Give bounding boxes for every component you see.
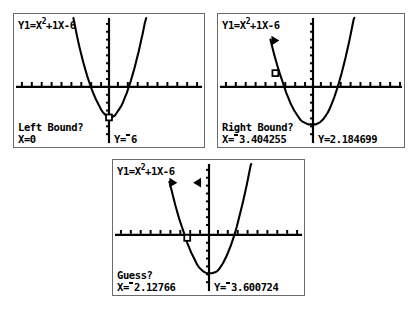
cursor-square[interactable] [272,70,278,76]
equation-label: Y1=X2+1X-6 [117,164,175,176]
parabola-curve [169,164,251,273]
left-bound-marker-icon [271,36,279,46]
equation-label: Y1=X2+1X-6 [222,18,280,30]
x-readout: X=3.404255 [222,134,286,145]
equation-label: Y1=X2+1X-6 [18,18,76,30]
y-readout: Y=6 [114,134,137,145]
y-readout: Y=2.184699 [318,134,377,145]
prompt-label: Right Bound? [222,122,293,133]
left-bound-marker-icon [169,178,177,188]
calculator-screen-right-bound[interactable]: Y1=X2+1X-6 Right Bound? X=3.404255 Y=2.1… [217,13,405,148]
prompt-label: Guess? [117,270,153,281]
cursor-square[interactable] [106,114,112,120]
cursor-square[interactable] [184,235,190,241]
prompt-label: Left Bound? [18,122,83,133]
calculator-screen-guess[interactable]: Y1=X2+1X-6 Guess? X=2.12766 Y=3.600724 [112,159,305,296]
x-readout: X=2.12766 [117,282,176,293]
right-bound-marker-icon [193,178,201,188]
calculator-screen-left-bound[interactable]: Y1=X2+1X-6 Left Bound? X=0 Y=6 [13,13,205,148]
x-readout: X=0 [18,134,36,145]
y-axis-ticks [310,24,314,134]
y-readout: Y=3.600724 [214,282,278,293]
